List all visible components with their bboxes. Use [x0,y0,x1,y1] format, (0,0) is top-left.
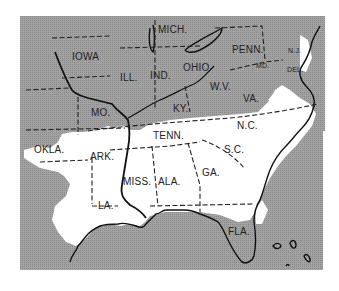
state-label-nc: N.C. [237,120,258,131]
state-label-wv: W.V. [210,81,231,92]
state-label-mo: MO. [91,107,111,118]
state-label-nj: N.J. [288,47,301,54]
state-label-fla: FLA. [228,226,250,237]
state-label-ky: KY. [173,103,188,114]
southeastern-us-map: IOWA MICH. ILL. IND. OHIO PENN. N.J. MD.… [0,0,339,291]
state-label-ill: ILL. [120,72,137,83]
state-label-tenn: TENN. [153,130,184,141]
state-label-iowa: IOWA [72,51,99,62]
state-label-miss: MISS. [123,176,151,187]
state-label-la: LA. [98,200,114,211]
state-label-ind: IND. [150,70,171,81]
state-label-del: DEL. [287,66,303,73]
state-label-mich: MICH. [158,24,187,35]
state-label-md: MD. [256,62,269,69]
state-label-ohio: OHIO [183,62,209,73]
state-label-ala: ALA. [158,176,180,187]
state-label-okla: OKLA. [34,144,64,155]
state-label-sc: S.C. [224,144,244,155]
state-label-ga: GA. [202,167,220,178]
state-label-penn: PENN. [232,44,264,55]
state-label-ark: ARK. [90,151,114,162]
state-label-va: VA. [243,93,259,104]
